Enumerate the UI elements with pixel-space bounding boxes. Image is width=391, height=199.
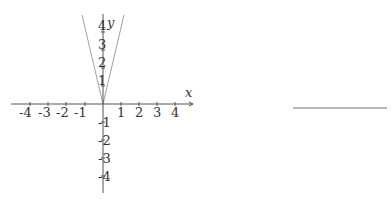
x-tick-label: -2 xyxy=(56,105,69,120)
y-tick-label: -2 xyxy=(98,133,111,148)
y-tick-label: 4 xyxy=(98,18,106,33)
x-tick-label: -1 xyxy=(74,105,87,120)
y-tick-label: 3 xyxy=(98,37,106,52)
y-tick-label: 2 xyxy=(98,55,106,70)
x-tick-label: 1 xyxy=(117,105,125,120)
y-axis-label: y xyxy=(106,15,115,30)
coordinate-plane: -4 -3 -2 -1 1 2 3 4 x 4 3 2 1 -1 -2 -3 -… xyxy=(0,0,391,199)
x-tick-label: -3 xyxy=(38,105,51,120)
y-tick-label: -3 xyxy=(98,151,111,166)
x-tick-label: 4 xyxy=(171,105,179,120)
x-tick-label: 3 xyxy=(153,105,161,120)
x-tick-label: 2 xyxy=(135,105,143,120)
y-tick-label: -4 xyxy=(98,169,111,184)
y-tick-label: -1 xyxy=(98,115,111,130)
y-tick-label: 1 xyxy=(98,73,106,88)
x-tick-label: -4 xyxy=(19,105,32,120)
x-axis-label: x xyxy=(185,85,193,100)
